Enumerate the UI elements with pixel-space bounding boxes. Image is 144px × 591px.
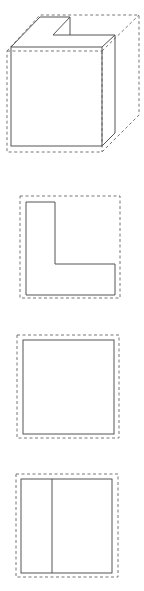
square-outline-divided [21, 479, 112, 573]
side-view [16, 474, 118, 577]
square-outline [23, 340, 114, 434]
isometric-solid [11, 17, 115, 146]
side-view-bounding-box [16, 474, 118, 577]
isometric-bounding-box [7, 15, 139, 152]
top-view-bounding-box [20, 196, 120, 298]
l-shape-outline [26, 202, 115, 295]
front-view [17, 335, 119, 438]
isometric-view [7, 15, 139, 152]
top-view [20, 196, 120, 298]
front-view-bounding-box [17, 335, 119, 438]
projection-diagram [0, 0, 144, 591]
